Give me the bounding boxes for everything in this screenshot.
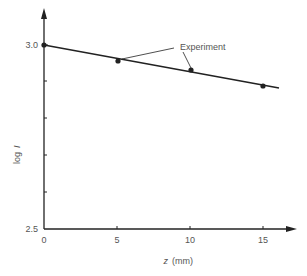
data-point <box>188 67 193 72</box>
annotation-experiment: Experiment <box>180 42 226 52</box>
annotation-leader <box>122 48 174 59</box>
chart: 3.0 2.5 0 5 10 15 z (mm) log I Experimen… <box>0 0 307 276</box>
y-axis-title-var: I <box>12 145 22 148</box>
x-axis-title-unit: (mm) <box>172 256 193 266</box>
x-tick-label-5: 5 <box>114 235 119 245</box>
x-tick-label-10: 10 <box>185 235 195 245</box>
x-tick-label-0: 0 <box>41 235 46 245</box>
x-tick-label-15: 15 <box>258 235 268 245</box>
x-axis-title-var: z <box>163 256 169 266</box>
y-axis-title: log I <box>12 145 22 164</box>
data-point <box>41 42 46 47</box>
data-point <box>115 58 120 63</box>
fit-line <box>44 45 279 88</box>
y-axis-arrow-icon <box>41 8 47 19</box>
annotation-leader <box>183 52 191 68</box>
data-point <box>260 83 265 88</box>
y-tick-label-2.5: 2.5 <box>25 224 38 234</box>
y-tick-label-3.0: 3.0 <box>25 40 38 50</box>
x-axis-arrow-icon <box>286 226 297 232</box>
y-axis-title-fn: log <box>12 152 22 164</box>
